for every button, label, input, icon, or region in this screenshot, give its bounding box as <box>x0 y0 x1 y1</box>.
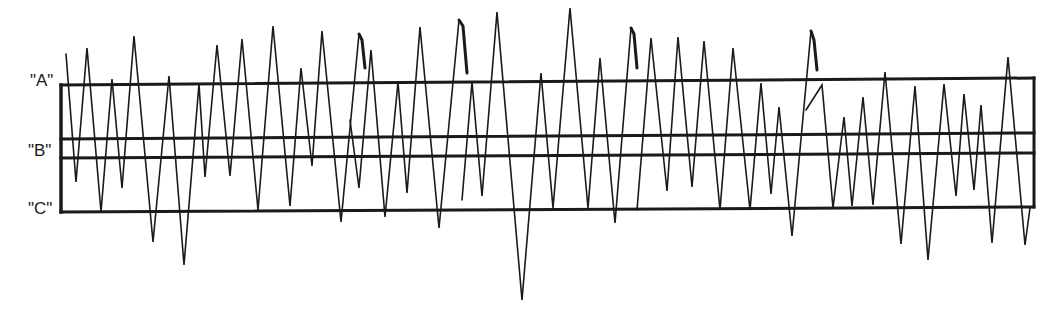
line-c <box>61 207 1034 212</box>
waveform-segment <box>350 20 459 228</box>
waveform-threshold-diagram <box>0 0 1057 320</box>
waveform-peak-hook <box>459 20 467 73</box>
waveform-segment <box>806 57 1030 260</box>
threshold-label-c: "C" <box>28 200 52 217</box>
waveform-segment <box>66 26 359 265</box>
threshold-label-a: "A" <box>30 72 53 89</box>
line-a <box>61 78 1034 85</box>
waveform-peak-hook <box>359 34 365 68</box>
waveform-peak-hook <box>631 28 637 68</box>
waveform-peak-hook <box>811 31 817 70</box>
threshold-label-b: "B" <box>28 142 51 159</box>
